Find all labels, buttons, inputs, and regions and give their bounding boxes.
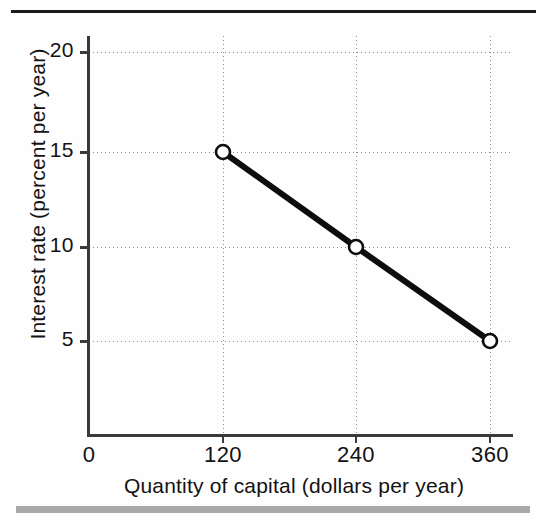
data-series-plot bbox=[0, 0, 542, 526]
y-tick-10 bbox=[80, 246, 89, 249]
y-tick-label-15: 15 bbox=[50, 138, 74, 162]
gridline-y-5 bbox=[89, 341, 513, 342]
gridline-y-10 bbox=[89, 247, 513, 248]
top-rule-divider bbox=[11, 10, 536, 13]
y-tick-20 bbox=[80, 51, 89, 54]
x-axis-title: Quantity of capital (dollars per year) bbox=[0, 474, 542, 498]
y-axis-line bbox=[87, 36, 90, 437]
y-tick-5 bbox=[80, 340, 89, 343]
gridline-x-360 bbox=[490, 36, 491, 443]
chart-figure: 2015105 0120240360 Quantity of capital (… bbox=[0, 0, 542, 526]
y-tick-15 bbox=[80, 151, 89, 154]
x-tick-label-240: 240 bbox=[337, 442, 375, 468]
gridline-x-120 bbox=[223, 36, 224, 443]
gridline-y-15 bbox=[89, 152, 513, 153]
x-tick-label-360: 360 bbox=[471, 442, 509, 468]
bottom-gray-bar bbox=[16, 506, 530, 513]
y-tick-label-5: 5 bbox=[62, 327, 74, 351]
x-axis-line bbox=[87, 434, 513, 437]
y-tick-label-10: 10 bbox=[50, 233, 74, 257]
y-tick-label-20: 20 bbox=[50, 38, 74, 62]
x-tick-label-120: 120 bbox=[204, 442, 242, 468]
gridline-x-240 bbox=[356, 36, 357, 443]
x-tick-label-0: 0 bbox=[83, 442, 96, 468]
y-axis-title: Interest rate (percent per year) bbox=[26, 24, 50, 364]
gridline-y-20 bbox=[89, 52, 513, 53]
